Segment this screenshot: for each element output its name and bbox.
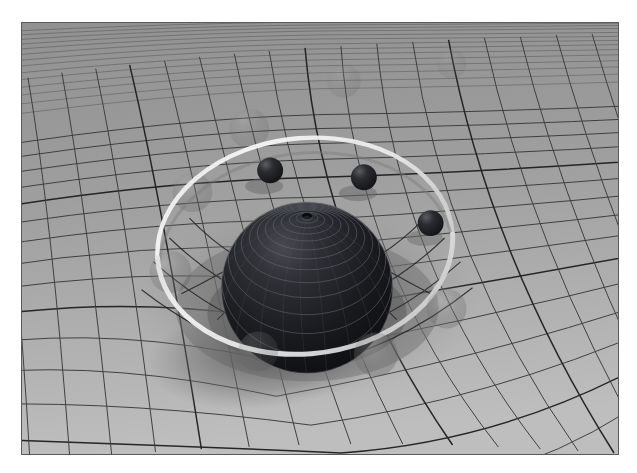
spacetime-curvature-figure: Spacetime curvature grid with massive ce… bbox=[21, 22, 619, 455]
screenshot-root: Spacetime curvature grid with massive ce… bbox=[0, 0, 637, 473]
render-canvas bbox=[22, 23, 618, 454]
